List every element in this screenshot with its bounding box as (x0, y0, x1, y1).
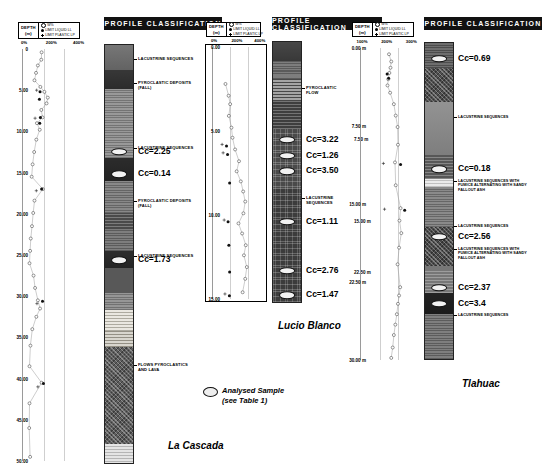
plus-icon (375, 33, 378, 36)
litho-layer (105, 268, 133, 293)
depth-axis-tlahuac: 0.00 m7.50 m15.00 m22.50 m30.00 m (344, 48, 366, 360)
litho-layer (425, 102, 453, 155)
analysed-sample-marker (279, 168, 295, 176)
depth-label: 45.00 (17, 417, 29, 422)
cc-value: Cc=2.25 (138, 146, 170, 156)
litho-annotation: FLOWS PYROCLASTICS AND LAVA (138, 363, 188, 373)
legend-box-la-cascada: DEPTH(m)W%LIMIT LIQUID LLLIMIT PLASTIC L… (18, 22, 80, 39)
legend-box-tlahuac: DEPTH(m)W%LIMIT LIQUID LLLIMIT PLASTIC L… (352, 22, 414, 37)
cc-value: Cc=3.4 (458, 298, 486, 308)
litho-layer (425, 314, 453, 360)
profile-classification-header-tlahuac: PROFILE CLASSIFICATION (424, 17, 542, 30)
depth-label: 35.00 (17, 335, 29, 340)
litho-layer (105, 213, 133, 230)
depth-label: 0 (25, 47, 28, 52)
analysed-sample-marker (111, 148, 127, 156)
annotation-tick (454, 226, 457, 227)
cc-value: Cc=3.22 (306, 134, 338, 144)
site-name-lucio-blanco: Lucio Blanco (278, 320, 341, 331)
analysed-sample-marker (279, 292, 295, 300)
annotation-tick (134, 83, 137, 84)
litho-layer (425, 187, 453, 227)
axis-tick-label: 100% (357, 39, 368, 44)
litho-layer (105, 230, 133, 251)
axis-tick-label: 0% (21, 40, 27, 45)
analysed-sample-marker (111, 256, 127, 264)
litho-layer (105, 310, 133, 331)
litho-layer (105, 293, 133, 310)
annotation-tick (134, 201, 137, 202)
legend-key-label: LIMIT PLASTIC LP (45, 33, 75, 38)
litho-annotation: PYROCLASTIC FLOW (306, 86, 336, 96)
analysed-sample-marker (431, 284, 447, 292)
depth-label: 40.00 (17, 376, 29, 381)
depth-axis-la-cascada: 05.0010.0015.0020.0025.0030.0035.0040.00… (6, 49, 28, 461)
analysed-sample-marker (431, 165, 447, 173)
litho-layer (105, 347, 133, 444)
litho-annotation: LACUSTRINE SEQUENCES (138, 57, 193, 62)
litho-annotation: LACUSTRINE SEQUENCES WITH PUMICE ALTERNA… (458, 247, 527, 261)
depth-label: 15.00 m (349, 202, 366, 207)
legend-keys: W%LIMIT LIQUID LLLIMIT PLASTIC LP (227, 23, 265, 36)
legend-key-2: LIMIT PLASTIC LP (41, 33, 75, 38)
depth-label: 10.00 (209, 213, 221, 218)
litho-layer (273, 189, 301, 303)
cc-value: Cc=0.18 (458, 163, 490, 173)
depth-label: 0.00 (211, 45, 220, 50)
litho-layer (425, 179, 453, 187)
litho-annotation: LACUSTRINE SEQUENCES (458, 115, 508, 120)
litho-layer (273, 101, 301, 129)
analysed-sample-legend: Analysed Sample(see Table 1) (203, 386, 284, 406)
legend-key-2: LIMIT PLASTIC LP (229, 32, 263, 37)
litho-layer (273, 42, 301, 61)
cc-value: Cc=0.69 (458, 53, 490, 63)
analysed-sample-sublabel: (see Table 1) (222, 396, 284, 406)
plus-icon (229, 33, 232, 36)
analysed-sample-marker (279, 152, 295, 160)
annotation-tick (302, 198, 305, 199)
site-name-tlahuac: Tlahuac (462, 378, 500, 389)
axis-tick-label: 200% (381, 39, 392, 44)
analysed-sample-label: Analysed Sample (222, 386, 284, 396)
filled-circle-icon (375, 28, 378, 31)
litho-annotation: LACUSTRINE SEQUENCES (306, 196, 333, 206)
axis-tick-label: 0% (211, 38, 217, 43)
legend-depth-unit: (m) (359, 30, 366, 35)
legend-keys: W%LIMIT LIQUID LLLIMIT PLASTIC LP (39, 23, 77, 38)
analysed-sample-marker (431, 233, 447, 241)
annotation-tick (134, 148, 137, 149)
cc-value: Cc=1.11 (306, 216, 338, 226)
cc-value: Cc=2.37 (458, 282, 490, 292)
annotation-tick (302, 88, 305, 89)
litho-annotation: PYROCLASTIC DEPOSITS (FALL) (138, 199, 191, 209)
depth-label: 50.00 (17, 459, 29, 464)
analysed-sample-legend-text: Analysed Sample(see Table 1) (222, 386, 284, 406)
analysed-sample-marker (279, 136, 295, 144)
annotation-tick (454, 181, 457, 182)
analysed-sample-marker (111, 171, 127, 179)
plus-icon (41, 34, 44, 37)
axis-tick-label: 400% (254, 38, 265, 43)
annotation-tick (134, 256, 137, 257)
cc-value: Cc=3.50 (306, 165, 338, 175)
profile-series-plot (23, 49, 85, 461)
lithology-column-tlahuac (424, 42, 454, 360)
depth-axis-lucio-blanco: 0.005.0010.0015.00 (200, 47, 220, 299)
annotation-tick (454, 117, 457, 118)
analysed-sample-marker (431, 55, 447, 63)
legend-key-2: LIMIT PLASTIC LP (375, 32, 409, 37)
analysed-sample-marker (279, 218, 295, 226)
depth-label: 5.00 (19, 88, 28, 93)
litho-layer (105, 181, 133, 213)
site-name-la-cascada: La Cascada (168, 440, 224, 451)
plot-tlahuac (360, 48, 417, 360)
plot-la-cascada (22, 49, 85, 461)
profile-series-plot (361, 48, 417, 360)
profile-classification-header-la-cascada: PROFILE CLASSIFICATION (104, 17, 222, 30)
depth-label: 15.00 (209, 297, 221, 302)
annotation-tick (454, 315, 457, 316)
legend-key-label: LIMIT PLASTIC LP (233, 32, 263, 37)
legend-depth-unit: (m) (25, 31, 32, 36)
profile-series-plot (213, 47, 265, 299)
litho-layer (425, 68, 453, 102)
